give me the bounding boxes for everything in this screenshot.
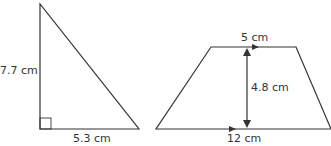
trapezoid-height-label: 4.8 cm — [251, 82, 289, 93]
trapezoid-bottom-label: 12 cm — [227, 133, 261, 144]
triangle-height-label: 7.7 cm — [0, 65, 38, 76]
diagram-canvas: 7.7 cm 5.3 cm 5 cm 4.8 cm 12 cm — [0, 0, 331, 146]
trapezoid-top-label: 5 cm — [241, 32, 268, 43]
shapes-svg — [0, 0, 331, 146]
height-arrow-icon — [243, 48, 251, 128]
trapezoid — [156, 47, 331, 129]
right-angle-marker-icon — [40, 118, 51, 129]
triangle-base-label: 5.3 cm — [73, 133, 111, 144]
right-triangle — [40, 4, 139, 129]
